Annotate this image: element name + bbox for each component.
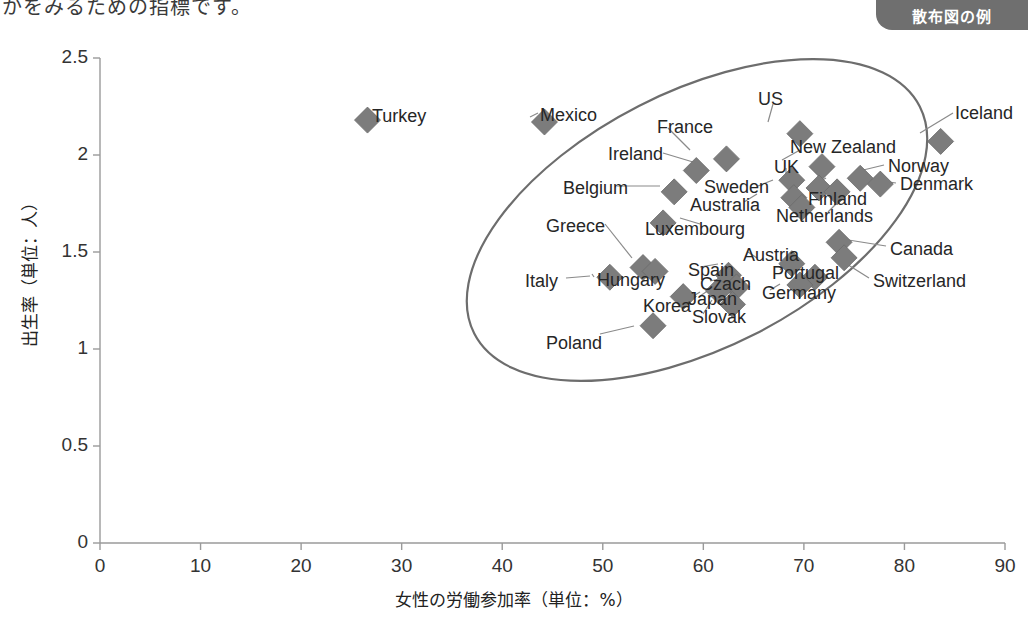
data-point-label: Korea: [643, 297, 691, 315]
x-tick-label: 70: [764, 555, 844, 577]
data-point-label: Greece: [546, 217, 605, 235]
data-point-label: Australia: [690, 196, 760, 214]
leader-line: [592, 274, 594, 277]
data-point-marker[interactable]: [847, 165, 873, 191]
data-point-label: Austria: [743, 246, 799, 264]
data-point-label: Turkey: [372, 107, 426, 125]
data-point-marker[interactable]: [809, 154, 835, 180]
data-point-label: Hungary: [597, 271, 665, 289]
data-point-label: UK: [774, 158, 799, 176]
data-point-label: US: [758, 90, 783, 108]
x-tick-label: 40: [462, 555, 542, 577]
data-point-label: Poland: [546, 334, 602, 352]
x-tick-label: 50: [563, 555, 643, 577]
x-tick-label: 80: [864, 555, 944, 577]
chart-page: かをみるための指標です。 散布図の例 TurkeyMexicoUSIceland…: [0, 0, 1028, 623]
data-point-label: Ireland: [608, 145, 663, 163]
data-point-label: Portugal: [772, 264, 839, 282]
x-tick-label: 30: [362, 555, 442, 577]
data-point-label: Belgium: [563, 179, 628, 197]
data-point-marker[interactable]: [640, 313, 666, 339]
data-point-marker[interactable]: [713, 146, 739, 172]
data-point-label: Denmark: [900, 175, 973, 193]
x-tick-label: 20: [261, 555, 341, 577]
scatter-plot: TurkeyMexicoUSIcelandFranceNew ZealandIr…: [0, 0, 1028, 623]
data-point-marker[interactable]: [928, 128, 954, 154]
y-axis-title: 出生率（単位：人）: [16, 181, 41, 361]
data-point-label: Germany: [762, 284, 836, 302]
y-tick-label: 0.5: [20, 434, 88, 456]
data-point-label: Norway: [888, 157, 949, 175]
leader-line: [600, 326, 634, 334]
data-point-label: Iceland: [955, 104, 1013, 122]
x-tick-label: 60: [663, 555, 743, 577]
y-tick-label: 2.5: [20, 46, 88, 68]
x-tick-label: 90: [965, 555, 1028, 577]
data-point-label: Switzerland: [873, 272, 966, 290]
y-tick-label: 0: [20, 531, 88, 553]
data-point-label: Sweden: [704, 178, 769, 196]
x-tick-label: 10: [161, 555, 241, 577]
data-point-label: Mexico: [540, 106, 597, 124]
plot-canvas: [0, 0, 1028, 623]
y-tick-label: 2: [20, 143, 88, 165]
data-point-label: Italy: [525, 272, 558, 290]
data-point-label: Canada: [890, 240, 953, 258]
leader-line: [663, 153, 693, 162]
data-point-label: Luxembourg: [645, 220, 745, 238]
leader-line: [605, 224, 632, 258]
x-axis-title: 女性の労働参加率（単位：%）: [0, 586, 1028, 611]
data-point-marker[interactable]: [661, 179, 687, 205]
data-point-label: New Zealand: [790, 138, 896, 156]
data-point-label: Netherlands: [776, 207, 873, 225]
data-point-label: Slovak: [692, 308, 746, 326]
x-tick-label: 0: [60, 555, 140, 577]
leader-line: [566, 276, 590, 278]
data-point-label: France: [657, 118, 713, 136]
data-point-label: Japan: [688, 290, 737, 308]
